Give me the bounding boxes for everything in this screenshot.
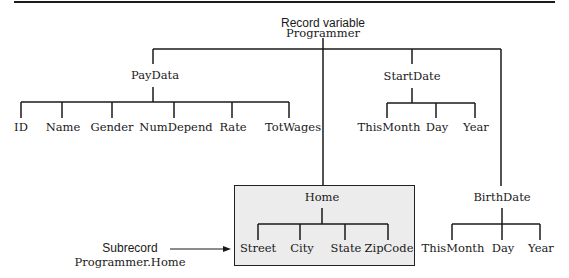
birthdate-field-year: Year (528, 243, 554, 255)
home-field-street: Street (240, 243, 276, 255)
root-label-line2: Programmer (286, 28, 360, 40)
startdate-label: StartDate (384, 71, 441, 83)
startdate-field-year: Year (463, 122, 489, 134)
record-structure-diagram: Record variable Programmer PayData ID Na… (0, 0, 569, 278)
birthdate-label: BirthDate (473, 192, 530, 204)
tree-connectors (0, 0, 569, 278)
paydata-field-gender: Gender (90, 122, 133, 134)
startdate-field-thismonth: ThisMonth (358, 122, 421, 134)
paydata-field-rate: Rate (219, 122, 246, 134)
birthdate-field-thismonth: ThisMonth (422, 243, 485, 255)
paydata-field-id: ID (14, 122, 28, 134)
birthdate-field-day: Day (492, 243, 515, 255)
paydata-field-totwages: TotWages (265, 122, 321, 134)
startdate-field-day: Day (426, 122, 449, 134)
home-label: Home (305, 192, 340, 204)
home-field-city: City (290, 243, 314, 255)
annotation-line2: Programmer.Home (74, 257, 185, 269)
home-field-zipcode: ZipCode (365, 243, 414, 255)
annotation-line1: Subrecord (102, 242, 157, 254)
paydata-field-numdepend: NumDepend (139, 122, 212, 134)
paydata-label: PayData (131, 70, 179, 82)
paydata-field-name: Name (46, 122, 81, 134)
home-field-state: State (331, 243, 362, 255)
arrow-head-icon (223, 246, 231, 252)
